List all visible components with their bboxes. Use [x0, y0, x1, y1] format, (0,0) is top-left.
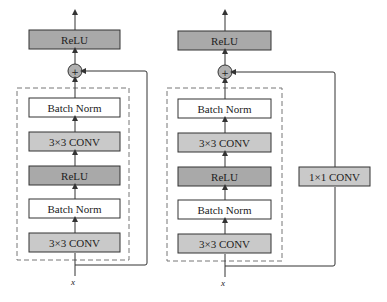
svg-text:ReLU: ReLU	[61, 170, 88, 182]
svg-text:Batch Norm: Batch Norm	[197, 103, 252, 115]
right-layer-conv3x3-2: 3×3 CONV	[178, 133, 271, 152]
svg-text:Batch Norm: Batch Norm	[47, 102, 102, 114]
svg-text:ReLU: ReLU	[61, 34, 88, 46]
left-residual-block: ReLU + Batch Norm 3×3 CONV ReLU Batch No…	[17, 12, 147, 287]
right-projection-shortcut-lower	[225, 187, 335, 266]
right-output-relu: ReLU	[178, 31, 271, 50]
svg-text:3×3 CONV: 3×3 CONV	[199, 238, 250, 250]
left-layer-conv3x3-1: 3×3 CONV	[29, 233, 120, 252]
svg-text:3×3 CONV: 3×3 CONV	[49, 136, 100, 148]
right-layer-batchnorm-1: Batch Norm	[178, 200, 271, 219]
svg-text:+: +	[71, 67, 79, 77]
right-add-node: +	[218, 65, 232, 79]
svg-text:Batch Norm: Batch Norm	[47, 203, 102, 215]
right-shortcut-conv1x1: 1×1 CONV	[299, 167, 370, 186]
svg-text:1×1 CONV: 1×1 CONV	[309, 171, 360, 183]
svg-text:ReLU: ReLU	[211, 35, 238, 47]
svg-text:ReLU: ReLU	[211, 171, 238, 183]
left-layer-relu: ReLU	[29, 166, 120, 185]
svg-text:3×3 CONV: 3×3 CONV	[199, 137, 250, 149]
svg-text:3×3 CONV: 3×3 CONV	[49, 237, 100, 249]
left-layer-conv3x3-2: 3×3 CONV	[29, 132, 120, 151]
right-projection-shortcut-upper	[233, 72, 335, 167]
svg-text:Batch Norm: Batch Norm	[197, 204, 252, 216]
left-layer-batchnorm-1: Batch Norm	[29, 199, 120, 218]
right-residual-block: ReLU + Batch Norm 3×3 CONV ReLU Batch No…	[167, 12, 370, 288]
left-add-node: +	[68, 64, 82, 78]
right-layer-relu: ReLU	[178, 167, 271, 186]
svg-text:+: +	[221, 68, 229, 78]
residual-block-diagram: ReLU + Batch Norm 3×3 CONV ReLU Batch No…	[0, 0, 387, 302]
left-input-label: x	[70, 277, 75, 287]
right-layer-batchnorm-2: Batch Norm	[178, 99, 271, 118]
left-output-relu: ReLU	[29, 30, 120, 49]
right-input-label: x	[220, 278, 225, 288]
left-layer-batchnorm-2: Batch Norm	[29, 98, 120, 117]
right-layer-conv3x3-1: 3×3 CONV	[178, 234, 271, 253]
